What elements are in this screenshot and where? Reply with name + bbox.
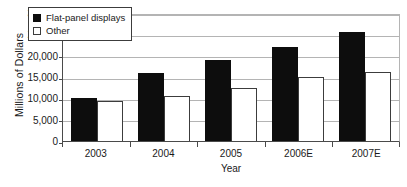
x-axis-tick-label: 2003 <box>62 147 130 161</box>
x-axis-title: Year <box>62 163 400 175</box>
legend-label: Flat-panel displays <box>46 11 125 24</box>
bar-group <box>197 15 264 141</box>
bar <box>339 32 365 141</box>
y-axis-tick-label: 15,000 <box>14 73 58 83</box>
y-axis-tick-label: 20,000 <box>14 52 58 62</box>
x-axis-tick-label: 2006E <box>265 147 333 161</box>
legend-label: Other <box>46 24 70 37</box>
legend-swatch-filled-square-icon <box>33 14 41 22</box>
y-axis-tick-label: 0 <box>14 137 58 147</box>
bar <box>272 47 298 141</box>
bar <box>164 96 190 141</box>
bar <box>231 88 257 141</box>
bar <box>97 101 123 141</box>
legend-item: Flat-panel displays <box>33 11 125 24</box>
bar <box>138 73 164 141</box>
legend-item: Other <box>33 24 125 37</box>
x-axis-tick-label: 2004 <box>130 147 198 161</box>
bar-group <box>265 15 332 141</box>
y-axis-tick-label: 5,000 <box>14 116 58 126</box>
bar <box>365 72 391 141</box>
legend-swatch-open-square-icon <box>33 27 41 35</box>
bar <box>71 98 97 141</box>
bar <box>205 60 231 141</box>
x-axis-tick-label: 2007E <box>332 147 400 161</box>
x-axis-tick-labels: 2003200420052006E2007E <box>62 147 400 161</box>
y-axis-tick-label: 10,000 <box>14 94 58 104</box>
bar-group <box>332 15 399 141</box>
bar <box>298 77 324 141</box>
chart-legend: Flat-panel displaysOther <box>28 7 132 41</box>
bar-group <box>130 15 197 141</box>
bar-chart: Millions of Dollars 05,00010,00015,00020… <box>0 0 407 187</box>
x-axis-tick-label: 2005 <box>197 147 265 161</box>
